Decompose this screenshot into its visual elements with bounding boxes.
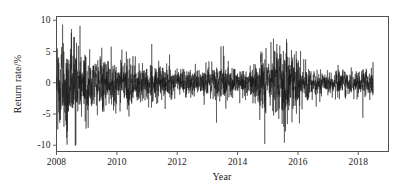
y-tick-label: -10: [0, 140, 51, 150]
y-tick-label: -5: [0, 109, 51, 119]
return-rate-chart-figure: Return rate/% Year 1050-5-10 20082010201…: [0, 0, 410, 191]
y-tick-label: 0: [0, 78, 51, 88]
x-tick-label: 2012: [168, 157, 187, 167]
x-tick-label: 2014: [228, 157, 247, 167]
x-tick-label: 2016: [288, 157, 307, 167]
x-tick-label: 2010: [107, 157, 126, 167]
x-tick-label: 2018: [349, 157, 368, 167]
y-tick-label: 10: [0, 15, 51, 25]
y-tick-label: 5: [0, 47, 51, 57]
x-axis-title: Year: [212, 171, 231, 182]
x-tick-label: 2008: [47, 157, 66, 167]
